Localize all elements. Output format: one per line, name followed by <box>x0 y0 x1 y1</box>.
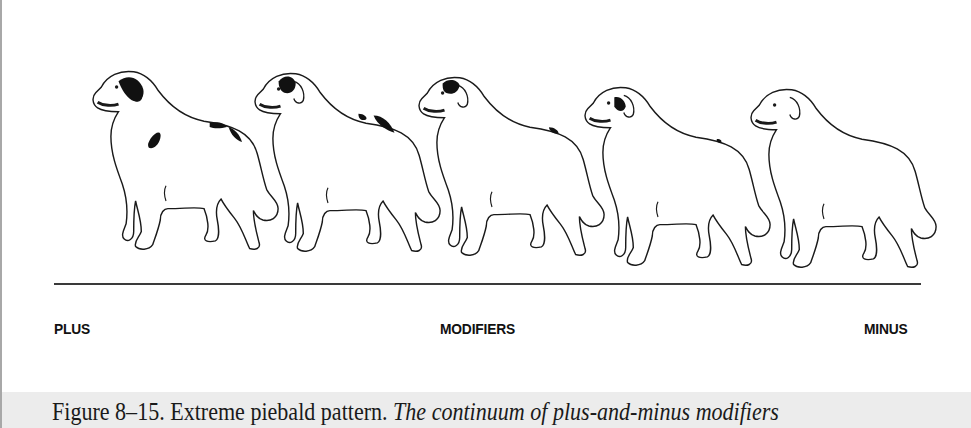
figure-caption: Figure 8–15. Extreme piebald pattern. Th… <box>52 398 779 426</box>
caption-italic-text: The continuum of plus-and-minus modifier… <box>393 398 779 425</box>
dog-3-medium-spotting <box>419 77 604 255</box>
label-modifiers: MODIFIERS <box>440 320 515 337</box>
dog-1-heavy-spotting <box>93 71 278 249</box>
dog-5-no-spotting <box>751 89 936 267</box>
label-minus: MINUS <box>864 320 908 337</box>
label-plus: PLUS <box>54 320 90 337</box>
continuum-line <box>54 283 921 285</box>
dog-4-low-spotting <box>585 87 770 265</box>
dog-2-high-spotting <box>255 73 440 251</box>
caption-label: Figure 8–15. Extreme piebald pattern. <box>52 398 388 425</box>
